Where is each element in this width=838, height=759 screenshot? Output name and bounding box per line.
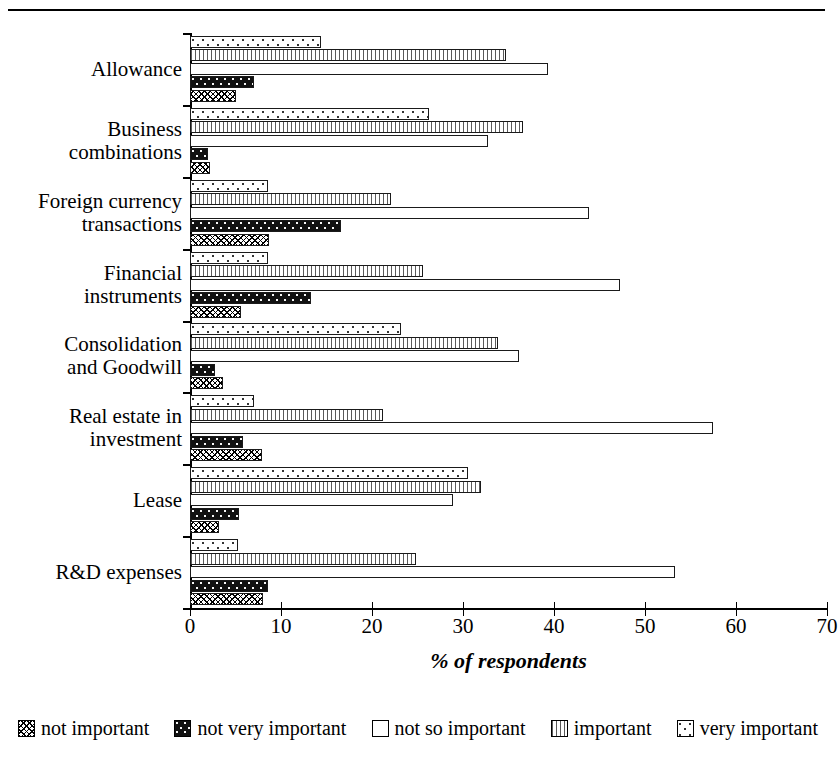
category-label: Real estate ininvestment — [10, 405, 190, 451]
bar-not-so-important-real-estate-in-investment — [190, 422, 713, 434]
bar-not-so-important-allowance — [190, 63, 548, 75]
bar-important-r-d-expenses — [190, 553, 416, 565]
legend-item: not so important — [372, 717, 526, 740]
bar-not-important-financial-instruments — [190, 306, 241, 318]
legend-item: important — [551, 717, 652, 740]
category-label: Financialinstruments — [10, 262, 190, 308]
category-label: Foreign currencytransactions — [10, 190, 190, 236]
category-label: R&D expenses — [10, 561, 190, 584]
category-label-line: Lease — [10, 489, 182, 512]
category-label: Allowance — [10, 57, 190, 80]
legend-swatch-icon — [174, 720, 191, 737]
bar-not-so-important-business-combinations — [190, 135, 488, 147]
category-label-line: combinations — [10, 141, 182, 164]
bar-not-important-foreign-currency-transactions — [190, 234, 269, 246]
bar-very-important-business-combinations — [190, 108, 429, 120]
bar-not-so-important-financial-instruments — [190, 279, 620, 291]
chart-legend: not importantnot very importantnot so im… — [18, 712, 818, 744]
category-label-line: instruments — [10, 285, 182, 308]
y-axis-tick — [183, 392, 191, 394]
y-axis-tick — [183, 536, 191, 538]
bar-not-very-important-financial-instruments — [190, 292, 311, 304]
bar-not-very-important-real-estate-in-investment — [190, 436, 243, 448]
category-label: Consolidationand Goodwill — [10, 333, 190, 379]
bar-very-important-consolidation-and-goodwill — [190, 323, 401, 335]
y-axis-tick — [183, 249, 191, 251]
y-axis-tick — [183, 33, 191, 35]
y-axis-tick — [183, 321, 191, 323]
category-label-line: Foreign currency — [10, 190, 182, 213]
bar-not-so-important-foreign-currency-transactions — [190, 207, 589, 219]
bar-important-business-combinations — [190, 121, 523, 133]
category-label-line: investment — [10, 428, 182, 451]
bar-very-important-real-estate-in-investment — [190, 395, 254, 407]
legend-label: not important — [41, 717, 149, 740]
bar-not-so-important-r-d-expenses — [190, 566, 675, 578]
bar-not-important-lease — [190, 521, 219, 533]
bar-very-important-r-d-expenses — [190, 539, 238, 551]
x-axis-tick-label: 30 — [453, 614, 474, 639]
bar-important-lease — [190, 481, 481, 493]
legend-item: very important — [677, 717, 818, 740]
category-label-line: Financial — [10, 262, 182, 285]
category-label-line: R&D expenses — [10, 561, 182, 584]
x-axis-tick-label: 0 — [185, 614, 196, 639]
category-label-line: Business — [10, 118, 182, 141]
bar-very-important-allowance — [190, 36, 321, 48]
y-axis-tick — [183, 608, 191, 610]
legend-label: not so important — [395, 717, 526, 740]
plot-area — [190, 33, 827, 608]
category-label-line: transactions — [10, 213, 182, 236]
y-axis-tick — [183, 105, 191, 107]
bar-not-very-important-lease — [190, 508, 239, 520]
bar-not-important-r-d-expenses — [190, 593, 263, 605]
bar-important-consolidation-and-goodwill — [190, 337, 498, 349]
bar-not-very-important-business-combinations — [190, 148, 208, 160]
bar-important-real-estate-in-investment — [190, 409, 383, 421]
x-axis-title: % of respondents — [190, 648, 827, 674]
legend-swatch-icon — [677, 720, 694, 737]
bar-not-important-allowance — [190, 90, 236, 102]
category-label-line: Real estate in — [10, 405, 182, 428]
bar-not-important-business-combinations — [190, 162, 210, 174]
legend-label: important — [574, 717, 652, 740]
y-axis-tick — [183, 177, 191, 179]
y-axis-tick — [183, 464, 191, 466]
x-axis-line — [190, 608, 827, 610]
category-label: Businesscombinations — [10, 118, 190, 164]
legend-label: not very important — [197, 717, 346, 740]
legend-swatch-icon — [18, 720, 35, 737]
bar-not-very-important-foreign-currency-transactions — [190, 220, 341, 232]
bar-not-so-important-lease — [190, 494, 453, 506]
x-axis-tick-label: 50 — [635, 614, 656, 639]
legend-swatch-icon — [372, 720, 389, 737]
bar-important-allowance — [190, 49, 506, 61]
bar-important-foreign-currency-transactions — [190, 193, 391, 205]
x-axis-tick-label: 60 — [726, 614, 747, 639]
category-label-line: Consolidation — [10, 333, 182, 356]
category-label-line: and Goodwill — [10, 356, 182, 379]
legend-item: not very important — [174, 717, 346, 740]
category-axis-labels: AllowanceBusinesscombinationsForeign cur… — [0, 33, 190, 608]
legend-label: very important — [700, 717, 818, 740]
bar-not-very-important-r-d-expenses — [190, 580, 268, 592]
bar-not-so-important-consolidation-and-goodwill — [190, 350, 519, 362]
category-label-line: Allowance — [10, 57, 182, 80]
legend-item: not important — [18, 717, 149, 740]
x-axis-tick-label: 40 — [544, 614, 565, 639]
legend-swatch-icon — [551, 720, 568, 737]
header-rule — [8, 9, 825, 11]
x-axis-tick-label: 70 — [817, 614, 838, 639]
bar-not-very-important-allowance — [190, 76, 254, 88]
bar-very-important-lease — [190, 467, 468, 479]
bar-important-financial-instruments — [190, 265, 423, 277]
bar-not-very-important-consolidation-and-goodwill — [190, 364, 215, 376]
x-axis-tick-label: 10 — [271, 614, 292, 639]
x-axis-tick-label: 20 — [362, 614, 383, 639]
category-label: Lease — [10, 489, 190, 512]
bar-very-important-foreign-currency-transactions — [190, 180, 268, 192]
bar-not-important-consolidation-and-goodwill — [190, 377, 223, 389]
bar-not-important-real-estate-in-investment — [190, 449, 262, 461]
bar-very-important-financial-instruments — [190, 252, 268, 264]
